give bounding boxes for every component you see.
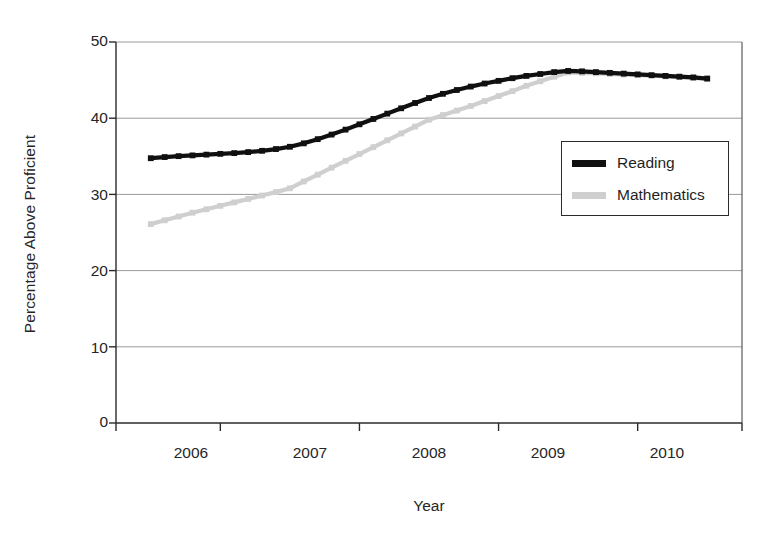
y-axis-title: Percentage Above Proficient [21,119,39,349]
x-tick-marks-group [116,423,742,431]
data-point-marker [148,221,154,227]
data-point-marker [329,165,335,171]
chart-plot-area [0,0,778,551]
data-point-marker [621,71,627,77]
y-tick-label-0: 0 [68,414,108,430]
data-point-marker [287,185,293,191]
data-point-marker [357,121,363,127]
x-tick-label-2008: 2008 [389,444,469,462]
data-point-marker [190,152,196,158]
data-point-marker [496,93,502,99]
data-point-marker [565,68,571,74]
data-point-marker [593,69,599,75]
data-point-marker [176,214,182,220]
data-point-marker [301,179,307,185]
data-point-marker [398,131,404,137]
data-point-marker [454,87,460,93]
legend-label-reading: Reading [617,154,675,172]
data-point-marker [440,91,446,97]
data-point-marker [690,75,696,81]
data-point-marker [412,124,418,130]
data-point-marker [217,203,223,209]
data-point-marker [454,108,460,114]
data-point-marker [649,72,655,78]
chart-container: 50 40 30 20 10 0 2006 2007 2008 2009 201… [0,0,778,551]
data-point-marker [343,158,349,164]
data-point-marker [551,69,557,75]
data-point-marker [412,100,418,106]
data-point-marker [245,196,251,202]
x-tick-label-2006: 2006 [151,444,231,462]
legend-item-mathematics[interactable]: Mathematics [572,182,705,208]
data-point-marker [176,153,182,159]
y-tick-label-10: 10 [68,340,108,356]
data-point-marker [677,74,683,80]
data-point-marker [663,73,669,79]
x-tick-label-2010: 2010 [627,444,707,462]
data-point-marker [301,140,307,146]
data-point-marker [468,103,474,109]
data-point-marker [259,193,265,199]
data-point-marker [370,144,376,150]
y-tick-label-30: 30 [68,187,108,203]
data-point-marker [287,144,293,150]
y-tick-marks-group [109,42,116,423]
data-point-marker [704,76,710,82]
y-tick-label-20: 20 [68,263,108,279]
data-point-marker [510,75,516,81]
data-point-marker [245,149,251,155]
data-point-marker [162,217,168,223]
data-point-marker [440,112,446,118]
data-point-marker [635,71,641,77]
x-tick-label-2007: 2007 [270,444,350,462]
data-point-marker [579,68,585,74]
data-point-marker [273,189,279,195]
legend-label-mathematics: Mathematics [617,186,705,204]
data-point-marker [426,95,432,101]
data-point-marker [398,105,404,111]
data-point-marker [329,132,335,138]
data-point-marker [217,151,223,157]
data-point-marker [357,151,363,157]
data-point-marker [204,152,210,158]
x-tick-label-2009: 2009 [508,444,588,462]
data-point-marker [162,154,168,160]
data-point-marker [231,150,237,156]
data-point-marker [510,88,516,94]
data-point-marker [273,146,279,152]
chart-legend: Reading Mathematics [561,141,729,216]
data-point-marker [370,116,376,122]
data-point-marker [204,206,210,212]
data-point-marker [468,84,474,90]
data-point-marker [537,71,543,77]
legend-item-reading[interactable]: Reading [572,150,675,176]
data-point-marker [482,98,488,104]
data-point-marker [607,70,613,76]
data-point-marker [384,137,390,143]
data-point-marker [496,78,502,84]
legend-swatch-reading [572,160,606,167]
data-point-marker [231,200,237,206]
data-point-marker [315,136,321,142]
data-point-marker [384,111,390,117]
y-tick-label-50: 50 [68,33,108,49]
data-point-marker [259,148,265,154]
x-axis-title: Year [116,497,742,515]
y-tick-label-40: 40 [68,110,108,126]
data-point-marker [523,83,529,89]
data-point-marker [343,127,349,133]
data-point-marker [482,81,488,87]
data-point-marker [148,155,154,161]
data-point-marker [426,117,432,123]
legend-swatch-mathematics [572,192,606,199]
data-point-marker [523,73,529,79]
data-point-marker [537,78,543,84]
data-point-marker [190,210,196,216]
data-point-marker [315,172,321,178]
